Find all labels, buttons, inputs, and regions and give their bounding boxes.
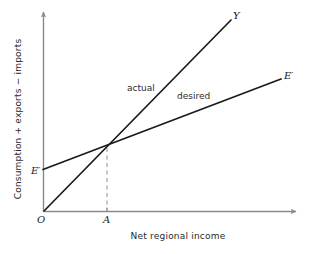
desired-line: [43, 79, 281, 170]
desired-curve-label: desired: [177, 92, 210, 101]
e-prime-end-prime: ′: [291, 71, 293, 81]
actual-line: [44, 20, 231, 211]
e-prime-intercept-prime: ′: [38, 166, 40, 176]
y-axis-title: Consumption + exports − imports: [14, 39, 23, 200]
e-prime-intercept-label: E′: [31, 166, 40, 176]
actual-curve-label: actual: [127, 84, 155, 93]
y-curve-end-label: Y: [233, 11, 240, 21]
economics-figure: Consumption + exports − imports Net regi…: [0, 0, 311, 254]
e-prime-end-label: E′: [284, 71, 293, 81]
x-tick-label-A: A: [103, 215, 110, 225]
plot-canvas: [0, 0, 311, 254]
x-axis-title: Net regional income: [131, 232, 226, 241]
origin-label: O: [37, 215, 45, 225]
